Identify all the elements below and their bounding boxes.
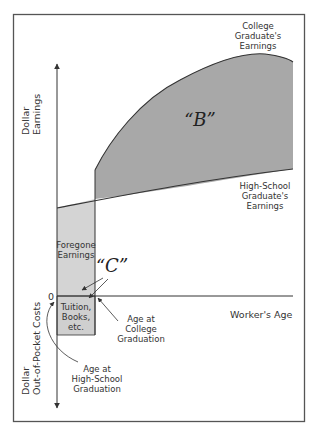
college-curve-label: College Graduate's Earnings	[235, 21, 282, 51]
area-b-label: “B”	[184, 109, 216, 130]
svg-text:College: College	[242, 21, 274, 31]
svg-text:Earnings: Earnings	[240, 41, 277, 51]
svg-text:Earnings: Earnings	[58, 250, 95, 260]
svg-text:College: College	[125, 324, 157, 334]
svg-text:High-School: High-School	[72, 374, 123, 384]
svg-text:Age at: Age at	[127, 314, 155, 324]
x-axis-label: Worker's Age	[230, 309, 293, 320]
human-capital-diagram: Dollar Earnings Dollar Out-of-Pocket Cos…	[0, 0, 314, 432]
origin-label: 0	[48, 291, 54, 302]
area-c-label: “C”	[96, 255, 128, 276]
svg-text:Foregone: Foregone	[56, 240, 96, 250]
svg-text:High-School: High-School	[240, 181, 291, 191]
svg-text:Books,: Books,	[62, 312, 90, 322]
hs-curve-label: High-School Graduate's Earnings	[240, 181, 291, 211]
svg-text:Graduation: Graduation	[117, 334, 165, 344]
svg-text:Earnings: Earnings	[247, 201, 284, 211]
svg-text:etc.: etc.	[68, 322, 84, 332]
svg-text:Graduation: Graduation	[73, 384, 121, 394]
y-axis-bottom-label: Dollar Out-of-Pocket Costs	[20, 302, 42, 395]
svg-text:Earnings: Earnings	[31, 94, 42, 135]
college-grad-age-label: Age at College Graduation	[117, 314, 165, 344]
svg-text:Dollar: Dollar	[20, 367, 31, 395]
svg-text:Out-of-Pocket Costs: Out-of-Pocket Costs	[31, 302, 42, 395]
svg-text:Dollar: Dollar	[20, 107, 31, 135]
svg-text:Graduate's: Graduate's	[235, 31, 282, 41]
foregone-label: Foregone Earnings	[56, 240, 96, 260]
svg-text:Graduate's: Graduate's	[242, 191, 289, 201]
svg-text:Tuition,: Tuition,	[60, 302, 92, 312]
hs-grad-age-label: Age at High-School Graduation	[72, 364, 123, 394]
y-axis-top-label: Dollar Earnings	[20, 94, 42, 135]
college-grad-arrow	[98, 298, 118, 321]
svg-text:Age at: Age at	[83, 364, 111, 374]
